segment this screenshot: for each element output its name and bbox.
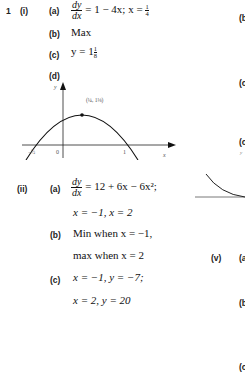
item-label-ii-c: (c) xyxy=(50,275,60,285)
right-label-c2: (c xyxy=(239,137,245,147)
right-label-c: (c xyxy=(239,78,245,88)
answer-ii-c: x = −1, y = −7; xyxy=(73,271,144,283)
right-part-label-v: (v) xyxy=(211,253,221,263)
item-label-i-c: (c) xyxy=(49,50,59,60)
item-label-i-b: (b) xyxy=(49,29,60,39)
answer-ii-a-line2: x = −1, x = 2 xyxy=(73,206,133,218)
item-label-ii-a: (a) xyxy=(50,184,60,194)
parabola-curve xyxy=(26,115,138,160)
origin-label: 0 xyxy=(56,149,59,155)
max-point-label: (¼, 1⅛) xyxy=(86,97,104,104)
answer-ii-b: Min when x = −1, xyxy=(73,227,152,239)
right-graph xyxy=(190,170,245,210)
equation-rhs: = 12 + 6x − 6x²; xyxy=(85,180,157,192)
right-label-c3: (c xyxy=(239,362,245,372)
root-left-label: −½ xyxy=(28,149,35,155)
equation-rhs: = 1 − 4x; x = xyxy=(85,3,145,15)
derivative-equation-ii-a: dydx = 12 + 6x − 6x²; xyxy=(71,177,157,198)
right-label-b2: (b xyxy=(239,298,245,308)
frac-denominator: 8 xyxy=(94,53,97,59)
part-label-i: (i) xyxy=(20,6,28,16)
x-axis-label: x xyxy=(162,152,166,158)
question-number: 1 xyxy=(6,6,11,16)
deriv-denominator: dx xyxy=(71,188,82,198)
part-label-ii: (ii) xyxy=(17,184,27,194)
right-label-a: (a xyxy=(239,253,245,263)
deriv-denominator: dx xyxy=(71,11,82,21)
answer-text: y = 1 xyxy=(71,45,94,57)
answer-ii-b-line2: max when x = 2 xyxy=(73,249,144,261)
x-axis-arrow-icon xyxy=(168,142,176,148)
answer-i-b: Max xyxy=(71,26,91,38)
right-label-b: (b xyxy=(239,13,245,23)
answer-ii-c-line2: x = 2, y = 20 xyxy=(73,294,131,306)
max-point-marker xyxy=(80,113,84,117)
right-graph-y-label: y xyxy=(240,150,242,155)
item-label-ii-b: (b) xyxy=(50,230,61,240)
derivative-equation-i-a: dydx = 1 − 4x; x = 14 xyxy=(71,0,149,21)
root-right-label: 1 xyxy=(123,149,126,155)
answer-i-c: y = 118 xyxy=(71,45,97,59)
frac-denominator: 4 xyxy=(145,11,148,17)
parabola-graph: y x 0 1 −½ (¼, 1⅛) xyxy=(20,80,180,160)
y-axis-label: y xyxy=(53,84,57,90)
y-axis-arrow-icon xyxy=(60,82,66,90)
item-label-i-a: (a) xyxy=(49,6,59,16)
right-curve xyxy=(206,174,245,197)
